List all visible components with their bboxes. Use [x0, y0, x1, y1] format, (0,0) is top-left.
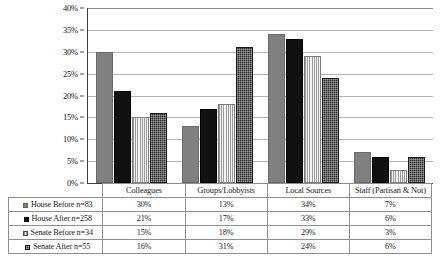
table-cell: 7%: [349, 198, 431, 212]
table-body: House Before n=8330%13%34%7%House After …: [9, 198, 432, 254]
legend-swatch-icon: [23, 203, 28, 208]
y-tick-mark: [80, 29, 84, 30]
bar: [304, 56, 321, 183]
bar-group: [174, 8, 260, 183]
table-row: Senate Before n=3415%18%29%3%: [9, 226, 432, 240]
table-column-header: Staff (Partisan & Not): [349, 184, 431, 198]
table-cell: 29%: [267, 226, 349, 240]
bars-layer: [88, 8, 433, 183]
y-tick-label: 20%: [63, 91, 78, 101]
chart-figure: 0%5%10%15%20%25%30%35%40% ColleaguesGrou…: [0, 0, 440, 260]
legend-swatch-icon: [25, 245, 30, 250]
legend-entry: House Before n=83: [9, 198, 103, 212]
y-tick-label: 25%: [63, 69, 78, 79]
bar: [354, 152, 371, 183]
table-cell: 33%: [267, 212, 349, 226]
legend-label: House Before n=83: [31, 200, 93, 209]
legend-label: House After n=258: [32, 214, 92, 223]
y-tick-label: 10%: [63, 134, 78, 144]
bar: [236, 47, 253, 183]
table-row: House Before n=8330%13%34%7%: [9, 198, 432, 212]
plot-region: 0%5%10%15%20%25%30%35%40%: [8, 8, 432, 190]
bar: [132, 117, 149, 183]
table-row: House After n=25821%17%33%6%: [9, 212, 432, 226]
table-cell: 31%: [185, 240, 267, 254]
y-axis: 0%5%10%15%20%25%30%35%40%: [8, 8, 84, 190]
bar: [390, 170, 407, 183]
y-tick-label: 40%: [63, 3, 78, 13]
y-tick-label: 35%: [63, 25, 78, 35]
bar: [182, 126, 199, 183]
y-tick-mark: [80, 95, 84, 96]
y-tick-mark: [80, 117, 84, 118]
legend-entry: House After n=258: [9, 212, 103, 226]
table-cell: 21%: [103, 212, 185, 226]
bar: [268, 34, 285, 183]
bar: [372, 157, 389, 183]
bar: [322, 78, 339, 183]
table-corner-cell: [9, 184, 103, 198]
bar: [150, 113, 167, 183]
table-cell: 18%: [185, 226, 267, 240]
bar: [218, 104, 235, 183]
legend-swatch-icon: [24, 217, 29, 222]
table-cell: 13%: [185, 198, 267, 212]
bar: [96, 52, 113, 183]
y-tick-mark: [80, 73, 84, 74]
table-cell: 30%: [103, 198, 185, 212]
y-tick-label: 15%: [63, 112, 78, 122]
y-tick-label: 30%: [63, 47, 78, 57]
legend-swatch-icon: [23, 231, 28, 236]
y-tick-label: 5%: [67, 156, 78, 166]
table-cell: 15%: [103, 226, 185, 240]
bar-group: [347, 8, 433, 183]
table-cell: 6%: [349, 212, 431, 226]
bar-group: [88, 8, 174, 183]
table-cell: 6%: [349, 240, 431, 254]
table-cell: 16%: [103, 240, 185, 254]
legend-entry: Senate Before n=34: [9, 226, 103, 240]
table-cell: 3%: [349, 226, 431, 240]
bar: [200, 109, 217, 183]
y-tick-mark: [80, 139, 84, 140]
bar: [114, 91, 131, 183]
table-row: Senate After n=5516%31%24%6%: [9, 240, 432, 254]
y-tick-mark: [80, 161, 84, 162]
table-column-header: Colleagues: [103, 184, 185, 198]
legend-entry: Senate After n=55: [9, 240, 103, 254]
y-tick-mark: [80, 8, 84, 9]
table-column-header: Groups/Lobbyists: [185, 184, 267, 198]
table-column-header: Local Sources: [267, 184, 349, 198]
bar-group: [261, 8, 347, 183]
data-table: ColleaguesGroups/LobbyistsLocal SourcesS…: [8, 183, 432, 254]
bar: [408, 157, 425, 183]
y-tick-mark: [80, 51, 84, 52]
legend-label: Senate After n=55: [33, 242, 90, 251]
table-cell: 34%: [267, 198, 349, 212]
plot-area: [87, 8, 433, 184]
table-cell: 17%: [185, 212, 267, 226]
bar: [286, 39, 303, 183]
table-cell: 24%: [267, 240, 349, 254]
legend-label: Senate Before n=34: [31, 228, 93, 237]
table-header-row: ColleaguesGroups/LobbyistsLocal SourcesS…: [9, 184, 432, 198]
